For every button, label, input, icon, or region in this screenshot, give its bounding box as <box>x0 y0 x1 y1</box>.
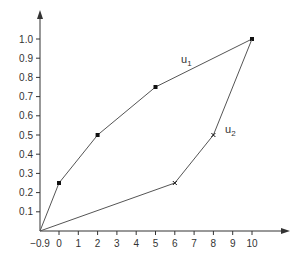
y-tick-label: 0.6 <box>19 110 33 121</box>
x-tick-label: −0.9 <box>30 238 50 249</box>
y-tick-label: 0.3 <box>19 168 33 179</box>
y-tick-label: 0.1 <box>19 206 33 217</box>
x-axis-arrow-icon <box>281 228 290 234</box>
y-tick-label: 1.0 <box>19 34 33 45</box>
x-tick-label: 8 <box>211 238 217 249</box>
data-point-dot-icon <box>57 181 61 185</box>
series-line-u1 <box>40 39 252 231</box>
x-tick-label: 10 <box>246 238 258 249</box>
y-tick-label: 0.8 <box>19 72 33 83</box>
x-tick-label: 7 <box>191 238 197 249</box>
y-tick-label: 0.7 <box>19 91 33 102</box>
data-point-cross-icon <box>211 133 215 137</box>
x-tick-label: 1 <box>76 238 82 249</box>
series-label-u1: u1 <box>181 53 192 68</box>
x-tick-label: 6 <box>172 238 178 249</box>
chart: −0.90123456789100.10.20.30.40.50.60.70.8… <box>0 0 299 266</box>
y-tick-label: 0.2 <box>19 187 33 198</box>
y-tick-label: 0.5 <box>19 130 33 141</box>
y-tick-label: 0.9 <box>19 53 33 64</box>
x-tick-label: 0 <box>56 238 62 249</box>
data-point-dot-icon <box>96 133 100 137</box>
x-tick-label: 3 <box>114 238 120 249</box>
series-labels: u1 u2 <box>181 53 236 138</box>
y-axis-arrow-icon <box>37 10 43 19</box>
data-point-dot-icon <box>154 85 158 89</box>
y-tick-label: 0.4 <box>19 149 33 160</box>
series-lines <box>40 37 254 231</box>
series-line-u2 <box>40 39 252 231</box>
series-label-u2: u2 <box>225 123 236 138</box>
x-tick-label: 2 <box>95 238 101 249</box>
x-tick-label: 9 <box>230 238 236 249</box>
x-tick-label: 5 <box>153 238 159 249</box>
x-tick-label: 4 <box>133 238 139 249</box>
